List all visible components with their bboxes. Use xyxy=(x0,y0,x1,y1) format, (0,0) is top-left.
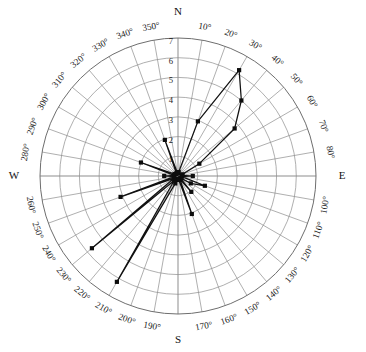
angle-label-220: 220° xyxy=(72,284,92,303)
angle-label-190: 190° xyxy=(143,319,162,332)
angle-label-160: 160° xyxy=(219,311,239,326)
angle-label-280: 280° xyxy=(19,143,32,162)
angle-label-240: 240° xyxy=(40,244,58,264)
angle-label-300: 300° xyxy=(35,91,53,111)
angle-label-110: 110° xyxy=(310,220,325,240)
radial-tick-label-6: 6 xyxy=(169,56,174,66)
angle-label-40: 40° xyxy=(269,52,286,68)
angle-label-20: 20° xyxy=(223,27,239,41)
radial-tick-label-3: 3 xyxy=(169,115,173,125)
data-point-110 xyxy=(203,184,207,188)
angle-label-320: 320° xyxy=(68,51,88,70)
data-point-40 xyxy=(239,98,243,102)
polar-chart: 1234567 N10°20°30°40°50°60°70°80°E100°11… xyxy=(0,0,366,352)
angle-label-130: 130° xyxy=(283,265,302,285)
radial-tick-label-7: 7 xyxy=(169,36,174,46)
angle-label-200: 200° xyxy=(117,312,137,327)
data-point-30 xyxy=(237,68,241,72)
cardinal-label-E: E xyxy=(339,169,346,181)
radial-tick-labels: 1234567 xyxy=(169,36,174,164)
data-point-230 xyxy=(90,246,94,250)
cardinal-label-N: N xyxy=(174,5,182,17)
data-point-160 xyxy=(190,212,194,216)
data-point-90 xyxy=(191,174,195,178)
cardinal-label-W: W xyxy=(9,169,20,181)
angle-label-230: 230° xyxy=(54,265,73,285)
angle-label-80: 80° xyxy=(325,145,337,160)
data-point-210 xyxy=(115,280,119,284)
data-point-290 xyxy=(139,160,143,164)
angle-label-260: 260° xyxy=(25,196,38,215)
data-point-340 xyxy=(163,138,167,142)
angle-label-290: 290° xyxy=(25,116,40,136)
angle-label-30: 30° xyxy=(247,37,263,52)
angle-label-50: 50° xyxy=(289,71,305,88)
data-point-120 xyxy=(189,181,193,185)
data-point-20 xyxy=(196,119,200,123)
angle-label-210: 210° xyxy=(93,300,113,318)
data-point-350 xyxy=(175,171,179,175)
angle-label-350: 350° xyxy=(142,20,161,33)
angle-label-330: 330° xyxy=(90,36,110,54)
radial-tick-label-2: 2 xyxy=(169,135,173,145)
angle-label-70: 70° xyxy=(317,118,331,134)
angle-label-310: 310° xyxy=(50,69,69,89)
angle-label-170: 170° xyxy=(194,319,213,332)
polar-chart-canvas: 1234567 N10°20°30°40°50°60°70°80°E100°11… xyxy=(0,0,366,352)
cardinal-label-S: S xyxy=(175,333,181,345)
data-point-250 xyxy=(118,195,122,199)
angle-label-340: 340° xyxy=(115,26,135,41)
angle-label-120: 120° xyxy=(298,243,316,263)
angle-label-10: 10° xyxy=(198,21,213,33)
angle-label-150: 150° xyxy=(242,299,262,317)
data-point-270 xyxy=(162,174,166,178)
data-point-50 xyxy=(233,126,237,130)
grid-spokes xyxy=(40,38,316,314)
angle-label-60: 60° xyxy=(305,94,320,110)
angle-label-100: 100° xyxy=(318,195,331,214)
data-point-140 xyxy=(189,190,193,194)
radial-tick-label-4: 4 xyxy=(169,95,174,105)
data-point-60 xyxy=(197,162,201,166)
angle-label-140: 140° xyxy=(264,284,284,303)
radial-tick-label-5: 5 xyxy=(169,75,173,85)
angle-label-250: 250° xyxy=(30,220,45,240)
